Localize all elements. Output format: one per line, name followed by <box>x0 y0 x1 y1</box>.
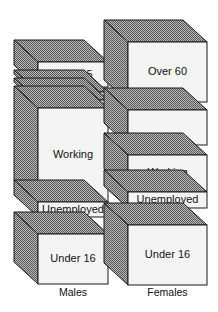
column-males: Over 65WorkingUnemployedUnder 16Males <box>14 40 108 298</box>
column-females: Over 60WorkingUnemployedUnder 16Females <box>104 20 207 298</box>
population-stack-diagram: Over 65WorkingUnemployedUnder 16MalesOve… <box>0 0 218 312</box>
block-f-under16: Under 16 <box>104 203 207 285</box>
block-m-under16: Under 16 <box>14 212 108 284</box>
block-label: Under 16 <box>50 252 95 264</box>
column-label: Females <box>147 286 187 298</box>
block-label: Under 16 <box>145 248 190 260</box>
column-label: Males <box>59 286 87 298</box>
block-label: Over 60 <box>148 65 187 77</box>
block-label: Working <box>53 148 93 160</box>
columns-layer: Over 65WorkingUnemployedUnder 16MalesOve… <box>14 20 207 298</box>
